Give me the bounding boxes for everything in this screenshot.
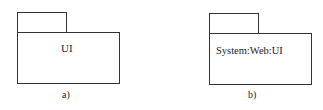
package-a-body [17, 32, 120, 84]
caption-b: b) [248, 89, 256, 100]
caption-a: a) [62, 89, 70, 100]
package-b-body [209, 33, 312, 85]
package-b-name: System:Web:UI [216, 45, 283, 56]
package-a-name: UI [61, 42, 73, 54]
package-b-tab [209, 13, 259, 34]
package-a-tab [17, 12, 67, 33]
